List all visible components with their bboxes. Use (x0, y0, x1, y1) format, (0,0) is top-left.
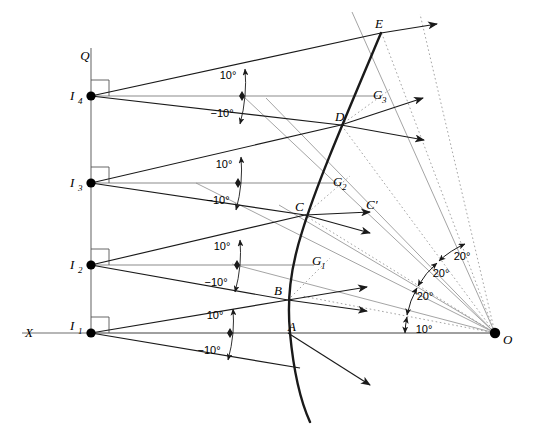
source-sub-i3: 3 (77, 183, 83, 193)
incident-ray-plus10-i2 (91, 215, 305, 265)
incident-ray-minus10-i2 (91, 265, 288, 300)
mirror-curve (289, 33, 381, 422)
fan-ray-solid (232, 264, 495, 333)
angle-arc-icon (240, 96, 245, 124)
curve-label-e: E (374, 16, 383, 31)
point-dot-i3 (86, 178, 95, 187)
incident-ray-minus10-i1 (91, 333, 300, 368)
curve-label-d: D (334, 109, 345, 124)
incident-angle-label: −10° (206, 194, 229, 206)
ray-diagram-figure: Q X I 4 I 3 I 2 I 1 A B C D E G 1 G 2 G … (0, 0, 538, 440)
right-angle-markers (91, 80, 109, 333)
g-sub-g3: 3 (381, 95, 387, 105)
source-label-i3: I (69, 175, 75, 190)
fan-ray-solid (279, 205, 495, 333)
incident-angle-label: 10° (214, 240, 231, 252)
fan-ray-dotted (382, 34, 495, 333)
axis-label-q: Q (80, 48, 90, 63)
angle-arc-icon-10 (405, 317, 407, 333)
fan-angle-label: 20° (433, 267, 450, 279)
g-sub-g1: 1 (321, 261, 326, 271)
incident-rays (91, 33, 381, 368)
outgoing-ray-c-lower (305, 215, 370, 233)
fan-ray-solid (352, 12, 495, 333)
point-dot-i2 (86, 260, 95, 269)
axis-label-x: X (24, 325, 34, 340)
source-sub-i1: 1 (78, 326, 83, 336)
incident-ray-plus10-i4 (91, 33, 381, 96)
arc-tick (239, 96, 245, 101)
arc-tick (234, 260, 240, 265)
source-label-i4: I (69, 88, 75, 103)
source-sub-i4: 4 (78, 96, 83, 106)
curve-label-b: B (274, 283, 282, 298)
outgoing-ray-e (381, 24, 437, 33)
curve-label-a: A (287, 319, 296, 334)
incident-ray-plus10-i3 (91, 125, 341, 183)
incident-angle-label: −10° (210, 107, 233, 119)
fan-angle-label: 20° (417, 290, 434, 302)
radial-fan-from-origin (93, 12, 495, 333)
incident-angle-label: −10° (204, 276, 227, 288)
angle-arc-icon (241, 157, 242, 183)
source-label-i2: I (69, 257, 75, 272)
arc-tick (227, 328, 233, 333)
incident-angle-label: 10° (220, 69, 237, 81)
outgoing-ray-b-lower (288, 300, 367, 311)
normal-segment-g3 (341, 88, 392, 125)
arc-tick (235, 178, 241, 183)
g-sub-g2: 2 (342, 182, 347, 192)
outgoing-ray-d-lower (341, 125, 424, 140)
reflected-label-c-prime: C′ (366, 197, 378, 212)
fan-angle-label: 10° (416, 323, 433, 335)
point-dot-o (490, 328, 500, 338)
incident-angle-label: 10° (207, 309, 224, 321)
point-dot-i4 (86, 91, 95, 100)
point-dot-i1 (86, 328, 95, 337)
source-label-i1: I (69, 318, 75, 333)
incident-angle-label: 10° (216, 158, 233, 170)
outgoing-ray-a-lower (288, 333, 370, 385)
incident-ray-plus10-i1 (91, 300, 288, 333)
origin-label-o: O (503, 332, 513, 347)
source-sub-i2: 2 (78, 265, 83, 275)
diagram-canvas: Q X I 4 I 3 I 2 I 1 A B C D E G 1 G 2 G … (0, 0, 538, 440)
fan-ray-dotted (302, 296, 495, 333)
arc-tick (239, 91, 245, 96)
fan-angle-label: 20° (454, 250, 471, 262)
fan-ray-dotted (420, 14, 495, 333)
curve-label-c: C (295, 199, 304, 214)
incident-ray-minus10-i3 (91, 183, 305, 215)
incident-angle-label: −10° (197, 344, 220, 356)
angle-arc-icon (240, 240, 241, 265)
outgoing-ray-c-upper (305, 212, 370, 215)
angle-arc-icon (245, 69, 246, 96)
fan-ray-dotted (306, 216, 495, 333)
